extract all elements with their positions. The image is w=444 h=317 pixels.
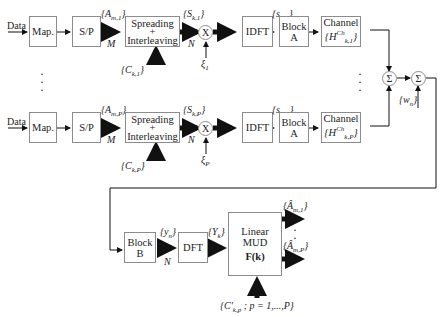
mapper-label: Map. [32,122,54,133]
channel-response-label: {HChk,1} [325,28,358,47]
mapper-block-P: Map. [29,112,57,143]
block-a-line1: Block [281,117,306,128]
block-a-line2: A [290,32,298,43]
rx-time-label: {yn} [160,226,176,242]
ellipsis-left: ··· [39,70,45,94]
summation-node-users: Σ [382,71,397,86]
output-label-P: {Âm,P} [283,240,308,256]
dft-block: DFT [178,232,208,263]
block-a-line2: A [290,128,298,139]
channel-block-P: Channel {HChk,P} [321,112,361,143]
signal-wires [0,0,444,317]
sp-label: S/P [79,26,94,37]
despreading-codes-label: {C'k,p ; p = 1,...,P} [220,300,294,316]
linear-mud-block: Linear MUD F(k) [228,212,282,276]
block-b: Block B [124,232,156,263]
multiply-symbol: X [202,28,209,38]
idft-block-1: IDFT [242,16,273,47]
spreading-interleaving-block-1: Spreading + Interleaving [125,16,180,47]
m-label-1: M [107,38,115,49]
xi-label-P: ξP [201,154,210,170]
block-a-1: Block A [279,16,309,47]
idft-label: IDFT [246,26,269,37]
channel-block-1: Channel {HChk,1} [321,16,361,47]
multiplier-1: X [198,25,213,40]
multiplier-P: X [198,121,213,136]
symbols-label-1: {Am,1} [101,8,125,24]
summation-node-noise: Σ [411,71,426,86]
idft-block-P: IDFT [242,112,273,143]
output-label-1: {Âm,1} [283,200,307,216]
block-a-P: Block A [279,112,309,143]
xi-label-1: ξ1 [201,58,209,74]
mapper-label: Map. [32,26,54,37]
m-label-P: M [107,134,115,145]
n-label-P: N [188,134,195,145]
mapper-block-1: Map. [29,16,57,47]
idft-label: IDFT [246,122,269,133]
serial-to-parallel-block-P: S/P [72,112,101,143]
code-label-P: {Ck,P} [121,160,145,176]
interleaving-label: Interleaving [127,35,178,46]
block-a-line1: Block [281,21,306,32]
channel-response-label: {HChk,P} [324,124,357,143]
multiply-symbol: X [202,124,209,134]
data-input-label-P: Data [7,116,26,127]
channel-label: Channel [324,113,359,124]
mud-line3: F(k) [245,251,264,262]
symbols-label-P: {Am,P} [101,104,126,120]
serial-to-parallel-block-1: S/P [72,16,101,47]
chips-label-P: {Sk,P} [183,104,205,120]
data-input-label-1: Data [7,20,26,31]
noise-label: {wn} [399,94,417,110]
dft-label: DFT [183,242,203,253]
sigma-symbol: Σ [387,74,393,84]
ellipsis-right: ··· [357,70,363,94]
block-b-line1: Block [127,237,152,248]
spreading-interleaving-block-P: Spreading + Interleaving [125,112,180,143]
n-label-1: N [188,38,195,49]
code-label-1: {Ck,1} [121,64,144,80]
interleaving-label: Interleaving [127,131,178,142]
mud-line2: MUD [243,237,268,248]
rx-freq-label: {Yk} [208,226,225,242]
block-b-line2: B [136,248,143,259]
sigma-symbol: Σ [416,74,422,84]
channel-label: Channel [324,17,359,28]
rx-n-label: N [164,256,171,267]
sp-label: S/P [79,122,94,133]
mud-line1: Linear [241,226,268,237]
chips-label-1: {Sk,1} [183,8,204,24]
